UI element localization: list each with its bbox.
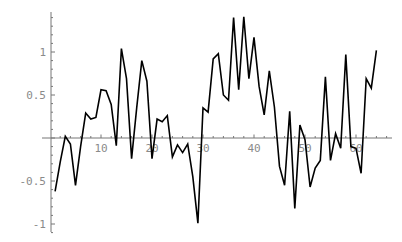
x-tick-label: 10: [94, 142, 107, 155]
axes: [42, 12, 392, 232]
y-tick-label: -0.5: [20, 175, 47, 188]
y-tick-label: 1: [39, 46, 46, 59]
y-tick-label: 0.5: [26, 89, 46, 102]
x-tick-label: 30: [196, 142, 209, 155]
data-line: [55, 17, 376, 223]
line-chart: 102030405060-1-0.50.51: [0, 0, 402, 242]
x-tick-label: 40: [247, 142, 260, 155]
y-tick-label: -1: [33, 218, 46, 231]
ticks: [51, 18, 387, 233]
